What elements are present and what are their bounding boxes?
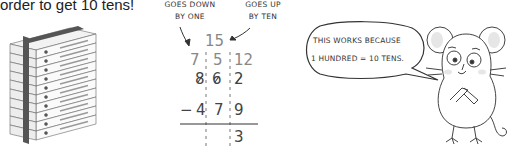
minuend-hundreds: 8 — [195, 70, 205, 88]
minus-operator: − — [180, 101, 193, 119]
minuend-ones: 2 — [234, 70, 244, 88]
box-icon-mark — [45, 114, 48, 117]
box-icon-mark — [45, 60, 48, 63]
box-icon-mark — [45, 51, 48, 54]
mouse-icon — [426, 27, 507, 144]
minuend-tens: 6 — [212, 70, 222, 88]
box-strap — [23, 36, 29, 144]
box-icon-mark — [45, 96, 48, 99]
caption-text: order to get 10 tens! — [0, 0, 134, 13]
subtrahend-ones: 9 — [234, 101, 244, 119]
mouse-illustration — [424, 20, 509, 148]
box-icon-mark — [45, 132, 48, 135]
box-icon-mark — [45, 123, 48, 126]
box-icon-mark — [45, 87, 48, 90]
speech-line2: 1 HUNDRED = 10 TENS. — [311, 50, 404, 67]
subtrahend-tens: 7 — [214, 101, 224, 119]
regroup-top: 15 — [205, 32, 224, 50]
regroup-tens: 5 — [213, 51, 223, 69]
arrow-up-icon — [233, 28, 250, 39]
box-stack-icon — [10, 26, 96, 144]
box-icon-mark — [45, 105, 48, 108]
result-ones: 3 — [234, 128, 244, 146]
box-stack-illustration — [8, 26, 108, 148]
regroup-ones: 12 — [234, 51, 253, 69]
box-icon-mark — [45, 78, 48, 81]
regroup-hundreds: 7 — [190, 51, 200, 69]
speech-line1: THIS WORKS BECAUSE — [313, 32, 401, 49]
box-icon-mark — [45, 69, 48, 72]
subtrahend-hundreds: 4 — [196, 101, 206, 119]
